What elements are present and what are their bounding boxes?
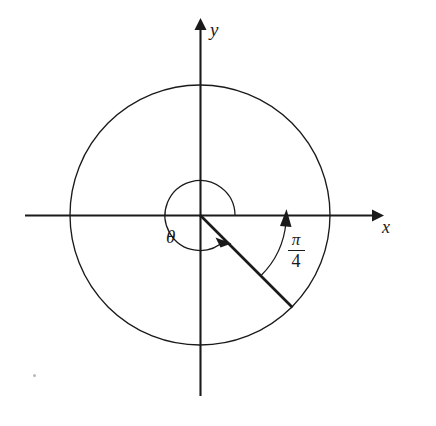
y-axis-arrowhead-icon (195, 18, 207, 30)
pi-over-four-fraction-label: π 4 (283, 231, 309, 271)
fraction-numerator: π (283, 231, 309, 249)
x-axis-label: x (382, 218, 390, 236)
figure-canvas (0, 0, 436, 426)
y-axis-label: y (210, 20, 218, 39)
theta-angle-label: θ (166, 227, 175, 246)
scan-speck-artifact (33, 374, 36, 377)
fraction-denominator: 4 (283, 252, 309, 271)
reference-angle-arrowhead-icon (280, 209, 292, 227)
trigonometry-angle-figure: y x θ π 4 (0, 0, 436, 426)
terminal-ray-line (200, 215, 293, 308)
